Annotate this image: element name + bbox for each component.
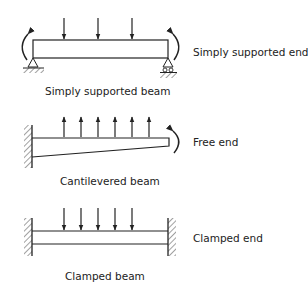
free-end-label: Free end	[193, 136, 238, 148]
pin-support-icon	[23, 58, 44, 73]
moment-arrow-right-icon	[173, 34, 179, 60]
cantilevered-beam-figure: Free end Cantilevered beam	[24, 117, 238, 187]
fixed-wall-right-icon	[168, 218, 176, 256]
fixed-wall-left-icon	[24, 218, 32, 256]
simply-supported-beam-caption: Simply supported beam	[45, 85, 171, 97]
beam-body	[32, 231, 168, 244]
downward-load-arrows	[64, 208, 132, 230]
simply-supported-end-label: Simply supported end	[193, 46, 308, 58]
clamped-beam-figure: Clamped end Clamped beam	[24, 208, 263, 282]
cantilevered-beam-caption: Cantilevered beam	[60, 175, 160, 187]
fixed-wall-left-icon	[24, 125, 32, 168]
beam-types-diagram: Simply supported end Simply supported be…	[0, 0, 308, 294]
clamped-end-label: Clamped end	[193, 232, 263, 244]
tapered-beam-body	[32, 138, 169, 157]
clamped-beam-caption: Clamped beam	[65, 270, 145, 282]
simply-supported-beam-figure: Simply supported end Simply supported be…	[22, 18, 308, 97]
roller-support-icon	[160, 58, 177, 78]
upward-load-arrows	[64, 117, 149, 137]
moment-arrow-free-end-icon	[173, 131, 179, 153]
beam-body	[33, 40, 168, 58]
moment-arrow-left-icon	[22, 34, 28, 60]
downward-load-arrows	[64, 18, 132, 39]
